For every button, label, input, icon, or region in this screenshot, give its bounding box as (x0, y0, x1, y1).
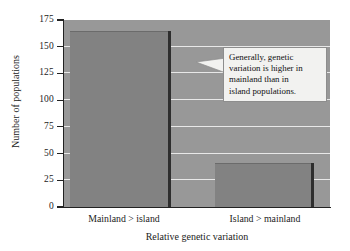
annotation-line: Generally, genetic (229, 52, 322, 63)
annotation-line: mainland than in (229, 74, 322, 85)
bar-chart-figure: 0255075100125150175 Number of population… (0, 0, 350, 251)
y-axis-tick-label: 50 (44, 149, 54, 159)
x-axis-category-label: Island > mainland (205, 213, 325, 224)
y-axis-tick-label: 175 (39, 15, 54, 25)
bar-top-edge (215, 163, 314, 164)
y-axis-tick-label: 100 (39, 95, 54, 105)
y-axis-tick (57, 73, 64, 74)
x-axis-line (63, 207, 331, 208)
bar-top-edge (70, 31, 171, 32)
y-axis-tick-label: 150 (39, 42, 54, 52)
bar (70, 31, 171, 207)
bar-shadow (311, 163, 314, 207)
annotation-callout: Generally, geneticvariation is higher in… (223, 47, 327, 102)
y-axis-tick-label: 75 (44, 122, 54, 132)
y-axis-tick (57, 180, 64, 181)
annotation-line: variation is higher in (229, 63, 322, 74)
y-axis-tick (57, 153, 64, 154)
y-axis-tick (57, 19, 64, 20)
y-axis-tick (57, 206, 64, 207)
x-axis-category-label: Mainland > island (64, 213, 184, 224)
y-axis-tick-label: 25 (44, 175, 54, 185)
annotation-line: island populations. (229, 86, 322, 97)
y-axis-tick (57, 46, 64, 47)
annotation-leader-icon (196, 56, 226, 76)
y-axis-tick (57, 100, 64, 101)
y-axis-tick-label: 0 (49, 202, 54, 212)
x-axis-title: Relative genetic variation (64, 231, 330, 242)
y-axis-tick (57, 126, 64, 127)
y-axis-tick-label: 125 (39, 68, 54, 78)
bar (215, 163, 314, 207)
y-axis-title: Number of populations (10, 37, 21, 167)
bar-shadow (168, 31, 171, 207)
